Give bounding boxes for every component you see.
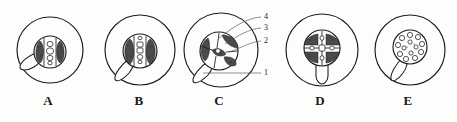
panel-b-speck <box>130 55 131 56</box>
panel-e-inner-cell <box>409 51 413 55</box>
panel-e-speck <box>413 43 414 44</box>
panel-e-ring-cell <box>395 42 400 47</box>
panel-b-central-cell <box>137 55 143 60</box>
panel-d-cross-cell <box>330 46 335 50</box>
panel-b-speck <box>148 56 149 57</box>
callout-label-1: 1 <box>264 69 278 77</box>
panel-e-ring-cell <box>412 55 417 60</box>
panel-e <box>375 15 445 85</box>
panel-e-ring-cell <box>399 35 404 40</box>
panel-e-ring-cell <box>397 51 402 56</box>
panel-d-speck <box>309 56 310 57</box>
panel-e-ring-cell <box>418 49 423 54</box>
figure-root: A B C D E 4 3 2 1 <box>0 0 457 122</box>
panel-e-ring-cell <box>415 34 420 39</box>
callout-label-3: 3 <box>264 24 278 32</box>
panel-a <box>17 17 83 83</box>
panel-e-inner-cell <box>408 40 412 44</box>
panel-e-ring-cell <box>403 56 408 61</box>
panel-e-ring-cell <box>419 41 424 46</box>
panel-e-speck <box>406 46 407 47</box>
panel-b-central-cell <box>138 36 142 39</box>
panel-c-speck <box>230 61 231 62</box>
panel-b-central-cell <box>137 48 143 53</box>
panel-a-central-cell <box>47 41 53 46</box>
panel-e-inner-cell <box>402 46 406 50</box>
panel-d-central-cell <box>319 45 325 51</box>
panel-b-central-cell <box>138 60 142 63</box>
panel-a-speck <box>58 56 59 57</box>
panel-d-cross-cell <box>320 56 324 61</box>
callout-label-2: 2 <box>264 37 278 45</box>
panel-a-central-cell <box>46 48 53 54</box>
panel-caption-d: D <box>308 94 332 108</box>
panel-d <box>286 14 358 86</box>
panel-c-speck <box>203 46 204 47</box>
panel-d-speck <box>333 39 334 40</box>
panel-d-speck <box>333 56 334 57</box>
panel-d-cross-cell <box>310 46 315 50</box>
panel-caption-e: E <box>396 94 420 108</box>
panel-caption-b: B <box>127 94 151 108</box>
panel-caption-a: A <box>36 94 60 108</box>
panel-a-speck <box>60 47 61 48</box>
panel-c <box>184 13 261 87</box>
panel-b-speck <box>127 44 128 45</box>
panel-caption-c: C <box>207 94 231 108</box>
panel-b-central-cell <box>137 42 143 47</box>
panel-a-speck <box>37 46 38 47</box>
callout-label-4: 4 <box>264 13 278 21</box>
panel-a-central-cell <box>48 61 52 65</box>
panel-e-ring-cell <box>407 32 412 37</box>
panel-d-speck <box>309 39 310 40</box>
panel-b <box>105 15 175 85</box>
panel-a-speck <box>40 55 41 56</box>
panel-b-speck <box>150 45 151 46</box>
panel-c-speck <box>219 52 220 53</box>
panel-a-central-cell <box>47 55 53 60</box>
panel-d-cross-cell <box>320 36 324 41</box>
panel-e-inner-cell <box>414 45 418 49</box>
